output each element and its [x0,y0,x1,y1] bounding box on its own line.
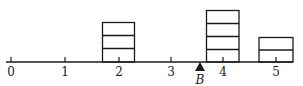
tick-label-2: 2 [115,65,123,79]
tick-label-0: 0 [7,65,15,79]
fulcrum-label: B [195,73,205,86]
weight-stack-2 [103,23,135,63]
tick-labels: 0 1 2 3 4 5 [7,65,280,79]
fulcrum-triangle-icon [195,62,205,71]
balance-diagram: 0 1 2 3 4 5 B [0,0,303,86]
weight-stack-4 [207,11,240,63]
tick-label-3: 3 [167,65,175,79]
fulcrum: B [195,62,205,86]
tick-label-5: 5 [272,65,280,79]
tick-label-1: 1 [61,65,69,79]
tick-label-4: 4 [219,65,227,79]
